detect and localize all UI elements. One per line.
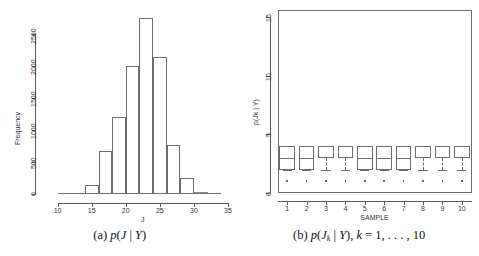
histogram-x-tick	[92, 203, 93, 207]
histogram-y-tick-label: 2000	[30, 60, 37, 76]
histogram-x-tick-label: 10	[51, 207, 65, 214]
boxplot-box	[435, 146, 451, 158]
histogram-x-tick	[194, 203, 195, 207]
boxplot-x-tick	[423, 201, 424, 205]
boxplot-whisker-cap	[399, 170, 408, 171]
histogram-bar	[112, 117, 126, 194]
boxplot-x-tick-label: 2	[299, 205, 315, 212]
panel-b-boxplot: 05101512345678910 p(Jk | Y) SAMPLE (b) p…	[240, 0, 479, 256]
boxplot-whisker-lower	[326, 158, 327, 170]
boxplot-x-tick	[287, 201, 288, 205]
boxplot-box	[338, 146, 354, 158]
histogram-x-axis-title: J	[123, 216, 163, 223]
boxplot-x-tick	[462, 201, 463, 205]
boxplot-x-tick-label: 5	[357, 205, 373, 212]
histogram-x-tick	[228, 203, 229, 207]
boxplot-box	[318, 146, 334, 158]
histogram-x-tick-label: 30	[187, 207, 201, 214]
boxplot-outlier-point	[325, 180, 327, 182]
boxplot-x-tick-label: 10	[454, 205, 470, 212]
histogram-plot-area: 10152025303505001000150020002500	[0, 0, 239, 256]
histogram-y-tick-label: 2500	[30, 28, 37, 44]
histogram-bar	[153, 57, 167, 194]
boxplot-median-line	[396, 158, 412, 159]
boxplot-x-tick-label: 9	[434, 205, 450, 212]
boxplot-y-tick-label: 0	[265, 192, 272, 196]
histogram-x-tick-label: 35	[221, 207, 235, 214]
panel-a-histogram: 10152025303505001000150020002500 Frequen…	[0, 0, 240, 256]
histogram-y-tick-label: 500	[30, 157, 37, 169]
boxplot-x-tick-label: 8	[415, 205, 431, 212]
boxplot-x-tick	[345, 201, 346, 205]
boxplot-x-tick-label: 1	[279, 205, 295, 212]
boxplot-whisker-cap	[438, 170, 447, 171]
boxplot-whisker-lower	[345, 158, 346, 170]
boxplot-outlier-point	[422, 180, 424, 182]
boxplot-whisker-cap	[360, 170, 369, 171]
caption-panel-b: (b) p(Jk | Y), k = 1, . . . , 10	[240, 228, 479, 243]
boxplot-whisker-cap	[321, 170, 330, 171]
boxplot-median-line	[279, 158, 295, 159]
histogram-bar	[126, 66, 140, 194]
boxplot-median-line	[357, 158, 373, 159]
histogram-bar	[139, 18, 153, 194]
boxplot-x-tick	[365, 201, 366, 205]
histogram-x-tick	[58, 203, 59, 207]
histogram-y-axis-title: Frequency	[14, 111, 21, 144]
boxplot-outlier-point	[364, 180, 366, 182]
boxplot-x-tick	[326, 201, 327, 205]
histogram-y-tick-label: 1500	[30, 92, 37, 108]
histogram-x-tick-label: 25	[153, 207, 167, 214]
boxplot-y-tick-label: 10	[265, 73, 272, 81]
boxplot-x-tick-label: 6	[376, 205, 392, 212]
boxplot-outlier-point	[461, 180, 463, 182]
histogram-y-tick-label: 1000	[30, 124, 37, 140]
boxplot-whisker-cap	[283, 170, 292, 171]
boxplot-x-tick-label: 3	[318, 205, 334, 212]
histogram-x-tick	[126, 203, 127, 207]
boxplot-x-tick	[442, 201, 443, 205]
boxplot-whisker-lower	[442, 158, 443, 170]
histogram-x-tick-label: 20	[119, 207, 133, 214]
histogram-x-tick-label: 15	[85, 207, 99, 214]
boxplot-y-tick-label: 5	[265, 133, 272, 137]
boxplot-y-axis-line	[270, 17, 271, 193]
histogram-bar	[167, 145, 181, 194]
boxplot-whisker-lower	[423, 158, 424, 170]
histogram-x-tick	[160, 203, 161, 207]
boxplot-whisker-cap	[380, 170, 389, 171]
boxplot-y-tick-label: 15	[265, 14, 272, 22]
histogram-bar	[180, 178, 194, 194]
boxplot-median-line	[299, 158, 315, 159]
caption-panel-a: (a) p(J | Y)	[0, 228, 240, 243]
boxplot-whisker-cap	[341, 170, 350, 171]
boxplot-x-tick-label: 7	[396, 205, 412, 212]
histogram-baseline	[58, 193, 222, 194]
boxplot-x-tick-label: 4	[337, 205, 353, 212]
boxplot-box	[415, 146, 431, 158]
boxplot-x-tick	[404, 201, 405, 205]
boxplot-x-tick	[384, 201, 385, 205]
boxplot-y-axis-title: p(Jk | Y)	[252, 99, 259, 125]
boxplot-box	[454, 146, 470, 158]
boxplot-whisker-lower	[462, 158, 463, 170]
boxplot-whisker-cap	[302, 170, 311, 171]
boxplot-x-axis-title: SAMPLE	[345, 214, 405, 221]
histogram-y-tick-label: 0	[30, 192, 37, 196]
boxplot-x-tick	[307, 201, 308, 205]
boxplot-median-line	[376, 158, 392, 159]
histogram-bar	[99, 151, 113, 194]
boxplot-whisker-cap	[418, 170, 427, 171]
histogram-x-axis-line	[58, 203, 228, 204]
boxplot-whisker-cap	[457, 170, 466, 171]
figure-two-panel: 10152025303505001000150020002500 Frequen…	[0, 0, 479, 256]
